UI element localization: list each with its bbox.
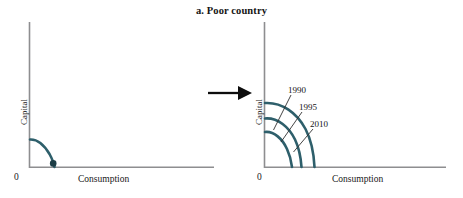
left-equilibrium-dot <box>50 160 57 167</box>
figure-container: a. Poor country Capital Consumption 0 <box>0 0 463 198</box>
right-panel-plot <box>231 0 463 198</box>
left-panel-plot <box>0 0 232 198</box>
left-origin-label: 0 <box>14 172 19 182</box>
right-origin-label: 0 <box>257 172 262 182</box>
right-axis-label-capital: Capital <box>254 99 264 125</box>
panel-poor-country-before: Capital Consumption 0 <box>0 0 232 198</box>
curve-label-2010: 2010 <box>310 119 328 129</box>
curve-label-1990: 1990 <box>288 85 306 95</box>
curve-label-1995: 1995 <box>299 102 317 112</box>
leader-line-1995 <box>281 112 302 142</box>
right-curve-frontier-1990 <box>265 132 292 167</box>
left-axis-label-consumption: Consumption <box>78 174 129 184</box>
panel-poor-country-after: Capital Consumption 0 1990 1995 2010 <box>231 0 463 198</box>
right-axis-label-consumption: Consumption <box>332 174 383 184</box>
left-axis-label-capital: Capital <box>19 99 29 125</box>
